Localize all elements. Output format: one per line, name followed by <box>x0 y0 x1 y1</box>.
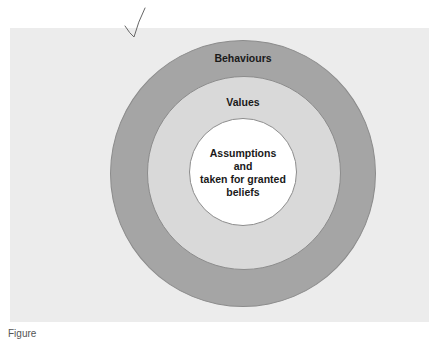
assumptions-line-1: Assumptions <box>193 147 293 160</box>
behaviours-label: Behaviours <box>193 52 293 65</box>
assumptions-line-3: taken for granted <box>193 173 293 186</box>
values-label: Values <box>193 96 293 109</box>
assumptions-label: Assumptions and taken for granted belief… <box>193 147 293 199</box>
figure-caption: Figure <box>8 328 36 339</box>
assumptions-line-2: and <box>193 160 293 173</box>
checkmark-icon <box>118 2 154 42</box>
assumptions-line-4: beliefs <box>193 186 293 199</box>
